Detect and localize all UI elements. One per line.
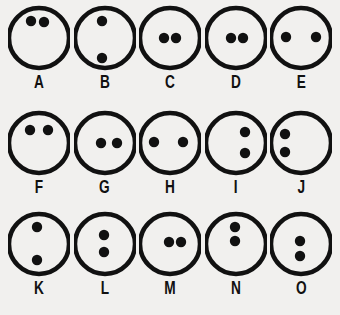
circle-svg <box>8 208 70 282</box>
outer-circle <box>271 113 331 173</box>
circle-label: F <box>35 177 43 196</box>
circle-row-1: ABCDE <box>0 2 340 107</box>
dot-2 <box>311 32 321 42</box>
circle-svg <box>270 2 332 76</box>
circle-item-k: K <box>8 208 70 312</box>
circle-item-c: C <box>139 2 201 106</box>
circle-svg <box>8 2 70 76</box>
circle-glyph <box>74 2 136 76</box>
circle-glyph <box>205 208 267 282</box>
dot-2 <box>237 33 247 43</box>
outer-circle <box>140 8 200 68</box>
circle-label: O <box>296 278 307 297</box>
dot-2 <box>32 255 42 265</box>
dot-1 <box>225 33 235 43</box>
circle-glyph <box>8 2 70 76</box>
dot-1 <box>32 222 42 232</box>
circle-label: N <box>231 278 241 297</box>
circle-item-i: I <box>205 107 267 211</box>
circle-item-h: H <box>139 107 201 211</box>
circle-label: H <box>165 177 175 196</box>
dot-2 <box>239 148 249 158</box>
circle-glyph <box>270 2 332 76</box>
outer-circle <box>9 113 69 173</box>
dot-1 <box>98 230 108 240</box>
dot-2 <box>229 236 239 246</box>
circle-glyph <box>205 107 267 181</box>
circle-label: I <box>234 177 238 196</box>
dot-1 <box>26 16 36 26</box>
circle-row-2: FGHIJ <box>0 107 340 212</box>
dot-1 <box>295 236 305 246</box>
circle-svg <box>74 2 136 76</box>
dot-2 <box>295 251 305 261</box>
circle-item-n: N <box>205 208 267 312</box>
circle-glyph <box>8 208 70 282</box>
circle-row-3: KLMNO <box>0 208 340 313</box>
dot-2 <box>43 125 53 135</box>
dot-1 <box>96 16 106 26</box>
circle-glyph <box>74 208 136 282</box>
circle-svg <box>8 107 70 181</box>
dot-1 <box>95 138 105 148</box>
circle-glyph <box>270 107 332 181</box>
circle-label: C <box>165 72 175 91</box>
circle-item-l: L <box>74 208 136 312</box>
dot-2 <box>96 53 106 63</box>
circle-label: J <box>297 177 305 196</box>
circle-item-o: O <box>270 208 332 312</box>
circle-glyph <box>8 107 70 181</box>
dot-2 <box>178 137 188 147</box>
circle-label: G <box>99 177 110 196</box>
dot-1 <box>239 127 249 137</box>
circle-label: D <box>231 72 241 91</box>
circle-label: L <box>100 278 108 297</box>
dot-2 <box>280 147 290 157</box>
circle-glyph <box>139 107 201 181</box>
circle-glyph <box>139 2 201 76</box>
circle-item-f: F <box>8 107 70 211</box>
outer-circle <box>9 8 69 68</box>
circle-item-j: J <box>270 107 332 211</box>
circle-svg <box>205 2 267 76</box>
circle-label: K <box>34 278 44 297</box>
circle-item-d: D <box>205 2 267 106</box>
figure-canvas: ABCDE FGHIJ KLMNO <box>0 0 340 315</box>
dot-2 <box>111 138 121 148</box>
circle-svg <box>270 208 332 282</box>
circle-svg <box>205 107 267 181</box>
outer-circle <box>206 113 266 173</box>
dot-1 <box>164 237 174 247</box>
dot-1 <box>229 222 239 232</box>
circle-label: E <box>296 72 305 91</box>
circle-glyph <box>270 208 332 282</box>
circle-svg <box>139 107 201 181</box>
dot-1 <box>149 137 159 147</box>
dot-2 <box>98 247 108 257</box>
dot-1 <box>25 125 35 135</box>
circle-item-g: G <box>74 107 136 211</box>
dot-2 <box>176 237 186 247</box>
circle-label: M <box>164 278 175 297</box>
circle-item-m: M <box>139 208 201 312</box>
circle-item-b: B <box>74 2 136 106</box>
dot-1 <box>280 129 290 139</box>
circle-label: A <box>34 72 44 91</box>
outer-circle <box>75 214 135 274</box>
circle-svg <box>74 107 136 181</box>
circle-glyph <box>139 208 201 282</box>
circle-label: B <box>100 72 110 91</box>
circle-svg <box>139 2 201 76</box>
dot-2 <box>171 33 181 43</box>
circle-glyph <box>74 107 136 181</box>
circle-svg <box>270 107 332 181</box>
dot-2 <box>39 17 49 27</box>
circle-glyph <box>205 2 267 76</box>
circle-item-e: E <box>270 2 332 106</box>
circle-svg <box>205 208 267 282</box>
circle-item-a: A <box>8 2 70 106</box>
outer-circle <box>271 8 331 68</box>
circle-svg <box>139 208 201 282</box>
dot-1 <box>281 32 291 42</box>
circle-svg <box>74 208 136 282</box>
